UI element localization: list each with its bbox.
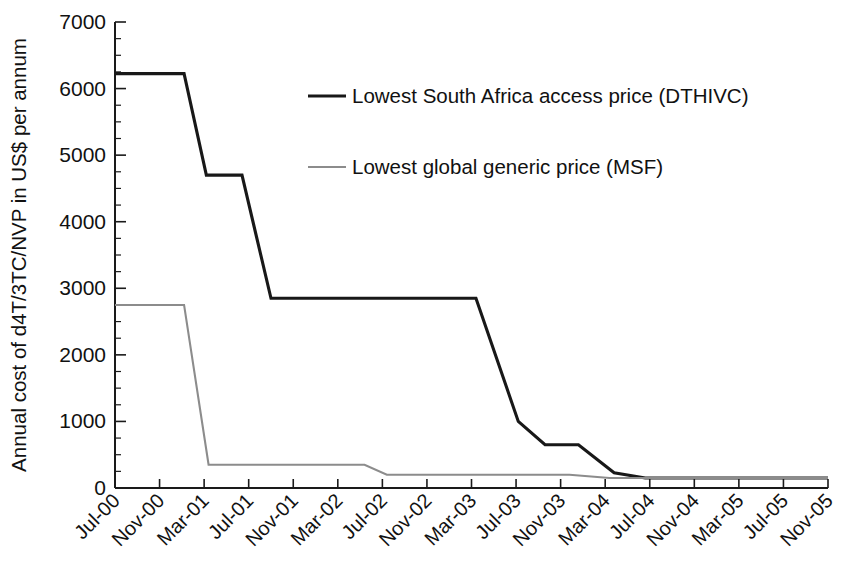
y-tick-label: 1000 bbox=[59, 409, 106, 432]
line-chart: 01000200030004000500060007000 Jul-00Nov-… bbox=[0, 0, 844, 580]
chart-legend: Lowest South Africa access price (DTHIVC… bbox=[308, 84, 748, 178]
y-tick-label: 2000 bbox=[59, 343, 106, 366]
y-axis-tick-labels: 01000200030004000500060007000 bbox=[59, 10, 106, 499]
figure-caption bbox=[0, 566, 844, 580]
series-line-1 bbox=[115, 305, 828, 478]
y-axis-label: Annual cost of d4T/3TC/NVP in US$ per an… bbox=[7, 38, 30, 472]
x-axis-ticks bbox=[115, 479, 828, 488]
y-tick-label: 6000 bbox=[59, 77, 106, 100]
series-line-0 bbox=[115, 74, 828, 478]
y-tick-label: 5000 bbox=[59, 143, 106, 166]
legend-label-1: Lowest global generic price (MSF) bbox=[352, 155, 663, 178]
y-tick-label: 7000 bbox=[59, 10, 106, 33]
data-series-group bbox=[115, 74, 828, 478]
y-tick-label: 3000 bbox=[59, 276, 106, 299]
figure-container: 01000200030004000500060007000 Jul-00Nov-… bbox=[0, 0, 844, 580]
x-axis-tick-labels: Jul-00Nov-00Mar-01Jul-01Nov-01Mar-02Jul-… bbox=[70, 489, 837, 550]
legend-label-0: Lowest South Africa access price (DTHIVC… bbox=[352, 84, 748, 107]
y-tick-label: 4000 bbox=[59, 210, 106, 233]
